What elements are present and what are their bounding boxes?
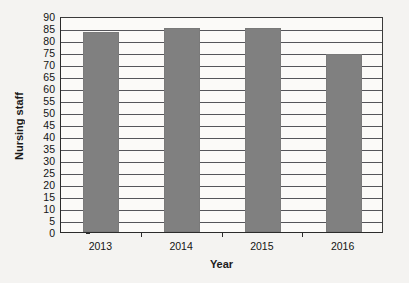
bar-chart-figure: Nursing staff 90858075706560555045403530… <box>0 0 409 283</box>
bars-layer <box>61 18 382 232</box>
y-axis-title: Nursing staff <box>10 62 28 190</box>
x-axis-tick-label: 2014 <box>169 240 192 252</box>
bar-2013 <box>83 32 119 232</box>
y-axis-tick-label: 15 <box>30 192 55 203</box>
y-axis-tick-label: 0 <box>30 228 55 239</box>
y-axis-tick-label: 5 <box>30 216 55 227</box>
y-axis-tick-label: 60 <box>30 84 55 95</box>
y-axis-tick-label: 40 <box>30 132 55 143</box>
y-axis-tick-label: 80 <box>30 36 55 47</box>
y-axis-tick-label: 65 <box>30 72 55 83</box>
x-axis-tick-label: 2015 <box>250 240 273 252</box>
y-axis-tick-labels: 908580757065605550454035302520151050 <box>30 17 55 233</box>
x-axis-tick-label: 2016 <box>331 240 354 252</box>
y-axis-tick-label: 55 <box>30 96 55 107</box>
bar-2016 <box>326 54 362 232</box>
x-axis-title: Year <box>60 258 383 270</box>
y-axis-tick-label: 20 <box>30 180 55 191</box>
y-axis-tick-label: 90 <box>30 12 55 23</box>
y-axis-tick-label: 85 <box>30 24 55 35</box>
x-axis-tick-labels: 2013201420152016 <box>60 233 383 259</box>
x-axis-tick-mark <box>302 233 303 237</box>
y-axis-tick-label: 30 <box>30 156 55 167</box>
y-axis-tick-label: 75 <box>30 48 55 59</box>
y-axis-tick-label: 35 <box>30 144 55 155</box>
y-axis-tick-label: 45 <box>30 120 55 131</box>
y-axis-tick-label: 50 <box>30 108 55 119</box>
x-axis-tick-mark <box>141 233 142 237</box>
x-axis-tick-mark <box>222 233 223 237</box>
y-axis-tick-label: 70 <box>30 60 55 71</box>
bar-2015 <box>245 28 281 232</box>
bar-2014 <box>164 28 200 232</box>
x-axis-tick-label: 2013 <box>89 240 112 252</box>
y-axis-tick-label: 10 <box>30 204 55 215</box>
plot-area <box>60 17 383 233</box>
y-axis-tick-label: 25 <box>30 168 55 179</box>
